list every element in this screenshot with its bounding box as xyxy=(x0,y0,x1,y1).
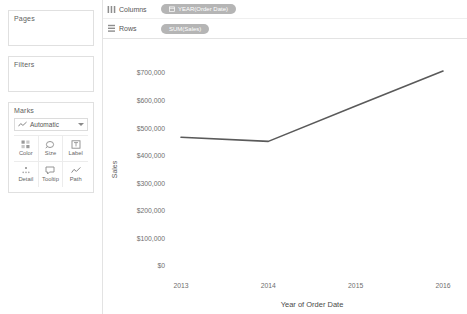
marks-button-color-label: Color xyxy=(19,151,33,157)
filters-card[interactable]: Filters xyxy=(8,56,94,92)
marks-button-color[interactable]: Color xyxy=(14,136,39,162)
y-axis-tick-label: $200,000 xyxy=(137,207,166,214)
x-axis-tick-label: 2013 xyxy=(173,282,188,289)
y-axis-tick-label: $300,000 xyxy=(137,180,166,187)
marks-button-tooltip-label: Tooltip xyxy=(42,177,59,183)
pill-sum-sales-label: SUM(Sales) xyxy=(169,26,201,32)
worksheet-pane: Columns YEAR(Order Date) xyxy=(103,0,467,314)
columns-shelf[interactable]: Columns YEAR(Order Date) xyxy=(103,0,467,19)
pages-card-title: Pages xyxy=(9,11,93,25)
data-line-sum-sales[interactable] xyxy=(181,71,443,141)
rows-icon xyxy=(107,24,116,33)
rows-shelf[interactable]: Rows SUM(Sales) xyxy=(103,19,467,38)
filters-card-title: Filters xyxy=(9,57,93,71)
x-axis-tick-label: 2016 xyxy=(435,282,450,289)
y-axis-tick-label: $500,000 xyxy=(137,125,166,132)
x-axis-tick-label: 2014 xyxy=(261,282,276,289)
marks-button-path[interactable]: Path xyxy=(63,162,88,187)
shelf-container: Columns YEAR(Order Date) xyxy=(103,0,467,39)
y-axis-tick-label: $100,000 xyxy=(137,235,166,242)
size-icon xyxy=(45,140,55,149)
marks-button-detail-label: Detail xyxy=(18,177,33,183)
line-chart[interactable]: $0$100,000$200,000$300,000$400,000$500,0… xyxy=(103,39,467,314)
mark-type-dropdown[interactable]: Automatic xyxy=(14,118,88,131)
tooltip-icon xyxy=(45,166,55,175)
tableau-worksheet: Pages Filters Marks Automatic xyxy=(0,0,467,314)
rows-shelf-dropzone[interactable]: SUM(Sales) xyxy=(161,24,467,34)
pages-card[interactable]: Pages xyxy=(8,10,94,46)
chart-area: $0$100,000$200,000$300,000$400,000$500,0… xyxy=(103,39,467,314)
columns-shelf-dropzone[interactable]: YEAR(Order Date) xyxy=(161,4,467,14)
marks-button-size[interactable]: Size xyxy=(39,136,64,162)
marks-card: Marks Automatic xyxy=(8,102,94,193)
marks-card-title: Marks xyxy=(9,103,93,117)
marks-button-size-label: Size xyxy=(45,151,56,157)
y-axis-tick-label: $400,000 xyxy=(137,152,166,159)
y-axis-title: Sales xyxy=(111,160,118,178)
marks-button-label[interactable]: Label xyxy=(63,136,88,162)
detail-icon xyxy=(21,166,31,175)
pill-year-order-date[interactable]: YEAR(Order Date) xyxy=(161,4,236,14)
y-axis-tick-label: $600,000 xyxy=(137,97,166,104)
color-palette-icon xyxy=(21,140,31,149)
marks-buttons-grid: Color Size xyxy=(14,135,88,187)
marks-button-label-label: Label xyxy=(69,151,83,157)
left-sidebar: Pages Filters Marks Automatic xyxy=(0,0,103,314)
columns-icon xyxy=(107,5,116,14)
marks-button-path-label: Path xyxy=(70,177,82,183)
label-icon xyxy=(71,140,81,149)
pill-sum-sales[interactable]: SUM(Sales) xyxy=(161,24,209,34)
x-axis-title: Year of Order Date xyxy=(281,300,344,309)
x-axis-tick-label: 2015 xyxy=(348,282,363,289)
rows-shelf-label: Rows xyxy=(119,25,161,32)
y-axis-tick-label: $700,000 xyxy=(137,69,166,76)
line-mark-icon xyxy=(18,120,27,129)
marks-button-detail[interactable]: Detail xyxy=(14,162,39,187)
y-axis-tick-label: $0 xyxy=(157,262,165,269)
calendar-icon xyxy=(169,6,175,12)
path-icon xyxy=(71,166,81,175)
columns-shelf-label: Columns xyxy=(119,6,161,13)
chevron-down-icon xyxy=(78,123,84,126)
mark-type-label: Automatic xyxy=(30,121,75,128)
marks-button-tooltip[interactable]: Tooltip xyxy=(39,162,64,187)
pill-year-order-date-label: YEAR(Order Date) xyxy=(178,6,228,12)
